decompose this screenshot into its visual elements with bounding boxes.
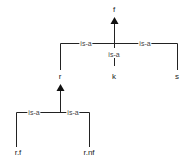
edge-label-rnf-r: is-a [66,109,79,116]
edge-label-s-f: is-a [138,40,151,47]
edge-label-r-f: is-a [79,40,92,47]
node-f: f [113,6,115,14]
node-r-f: r.f [15,149,22,157]
node-r: r [59,73,62,81]
node-k: k [112,73,116,81]
arrow-up-icon [111,17,119,24]
node-r-nf: r.nf [83,149,94,157]
arrow-up-icon [57,84,65,91]
node-s: s [175,73,179,81]
edge-label-rf-r: is-a [27,109,40,116]
diagram-lines [0,0,189,162]
edge-label-k-f: is-a [107,51,120,58]
